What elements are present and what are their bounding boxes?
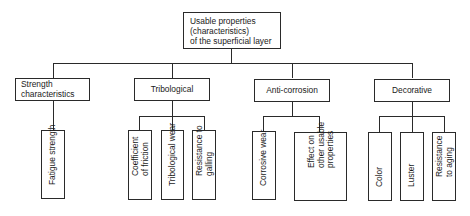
leaf-effect-on-other-usable-properties: Effect on other usable properties [294, 132, 347, 201]
category-decorative: Decorative [374, 79, 450, 102]
label-line: Tribological wear [168, 123, 178, 186]
leaf-label: Fatigue strength [48, 124, 58, 185]
connector [292, 63, 293, 78]
leaf-luster: Luster [400, 132, 424, 201]
category-label: Tribological [135, 79, 209, 100]
connector [139, 116, 140, 130]
root-node: Usable properties (characteristics) of t… [183, 12, 281, 49]
root-label-line: (characteristics) [190, 26, 271, 36]
leaf-label: Effect on other usable properties [306, 121, 335, 167]
label-line: of friction [140, 137, 150, 176]
category-label: Anti-corrosion [255, 80, 329, 101]
category-tribological: Tribological [134, 78, 210, 101]
label-line: Luster [407, 163, 417, 186]
leaf-fatigue-strength: Fatigue strength [41, 130, 65, 199]
connector [53, 63, 54, 78]
label-line: characteristics [21, 90, 75, 100]
leaf-label: Resistance to aging [435, 136, 454, 177]
leaf-label: Coefficient of friction [131, 137, 150, 176]
label-line: Fatigue strength [48, 124, 58, 185]
connector [172, 101, 173, 117]
connector [292, 102, 293, 116]
root-label-line: of the superficial layer [190, 36, 271, 46]
label-line: to aging [444, 136, 454, 177]
connector [379, 116, 380, 132]
category-anti-corrosion: Anti-corrosion [254, 79, 330, 102]
label-line: Corrosive wear [259, 129, 269, 185]
label-line: Color [375, 166, 385, 186]
connector [412, 63, 413, 78]
connector [53, 63, 413, 64]
leaf-color: Color [368, 132, 392, 201]
leaf-label: Luster [407, 163, 417, 186]
leaf-tribological-wear: Tribological wear [161, 130, 184, 200]
leaf-resistance-to-aging: Resistance to aging [432, 132, 456, 201]
connector [412, 116, 413, 132]
category-strength: Strengthcharacteristics [15, 78, 90, 101]
connector [412, 102, 413, 116]
connector [172, 63, 173, 78]
leaf-coefficient-of-friction: Coefficient of friction [128, 130, 152, 200]
connector [231, 49, 232, 63]
category-label: Strengthcharacteristics [16, 79, 89, 100]
connector [444, 116, 445, 132]
label-line: Effect on [306, 121, 316, 167]
leaf-corrosive-wear: Corrosive wear [252, 131, 276, 200]
label-line: properties [325, 121, 335, 167]
root-label-line: Usable properties [190, 16, 271, 26]
root-label: Usable properties (characteristics) of t… [190, 16, 271, 46]
leaf-label: Resistance to galling [195, 125, 214, 176]
label-line: galling [204, 125, 214, 176]
leaf-label: Tribological wear [168, 123, 178, 186]
leaf-label: Color [375, 166, 385, 186]
category-label: Decorative [375, 80, 449, 101]
leaf-label: Corrosive wear [259, 129, 269, 185]
connector [263, 116, 320, 117]
leaf-resistance-to-galling: Resistance to galling [192, 130, 216, 200]
